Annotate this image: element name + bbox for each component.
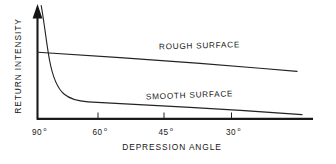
x-axis-tick-label-45-value: 45 (159, 128, 169, 137)
x-axis-tick-label-30-value: 30 (226, 128, 236, 137)
degree-symbol-icon: o (104, 126, 108, 132)
x-axis (37, 113, 313, 119)
degree-symbol-icon: o (44, 126, 48, 132)
x-axis-tick-label-45: 45 o (159, 126, 174, 137)
y-axis (33, 4, 43, 119)
chart-figure: RETURN INTENSITY DEPRESSION ANGLE 90 o 6… (0, 0, 336, 164)
degree-symbol-icon: o (238, 126, 242, 132)
x-axis-tick-label-30: 30 o (226, 126, 241, 137)
x-axis-title: DEPRESSION ANGLE (122, 142, 222, 152)
x-axis-tick-label-90-value: 90 (32, 128, 42, 137)
degree-symbol-icon: o (170, 126, 174, 132)
series-annotation-rough-surface: ROUGH SURFACE (159, 40, 240, 51)
series-line-rough-surface (38, 52, 297, 71)
series-annotation-smooth-surface: SMOOTH SURFACE (146, 89, 234, 101)
x-axis-tick-label-90: 90 o (32, 126, 47, 137)
chart-plot-area: RETURN INTENSITY DEPRESSION ANGLE 90 o 6… (0, 0, 336, 164)
y-axis-title: RETURN INTENSITY (13, 18, 23, 113)
x-axis-tick-label-60: 60 o (93, 126, 108, 137)
x-axis-tick-label-60-value: 60 (93, 128, 103, 137)
